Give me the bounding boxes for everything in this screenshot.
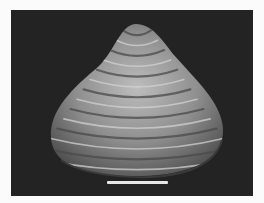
scale-bar <box>107 181 168 184</box>
shell-body <box>51 24 223 176</box>
shell-illustration <box>11 10 253 196</box>
specimen-photo <box>11 10 253 196</box>
